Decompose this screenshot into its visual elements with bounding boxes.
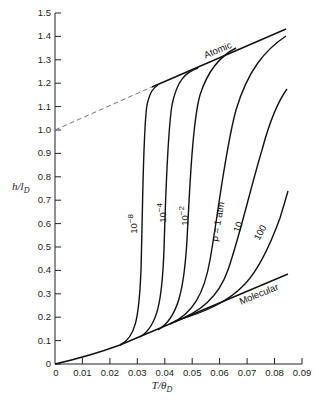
y-tick-label: 1.1 [38, 101, 51, 112]
y-axis-title: h/lD [12, 180, 30, 195]
y-tick-label: 0.7 [38, 194, 51, 205]
chart: 0 0.1 0.2 0.3 0.4 0.5 0.6 0.7 0.8 0.9 1.… [0, 0, 319, 403]
label-p100: 100 [251, 223, 268, 242]
x-tick-label: 0.06 [210, 367, 229, 378]
x-tick-label: 0 [53, 367, 58, 378]
atomic-dashed-line [55, 86, 154, 130]
y-tick-label: 1.5 [38, 7, 51, 18]
y-tick-label: 0.6 [38, 218, 51, 229]
x-tick-label: 0.07 [238, 367, 257, 378]
y-tick-label: 0.1 [38, 335, 51, 346]
y-tick-label: 1.3 [38, 54, 51, 65]
curve-p1atm [170, 36, 286, 324]
cropped-caption [4, 396, 315, 403]
x-tick-label: 0.02 [101, 367, 120, 378]
x-tick-label: 0.08 [265, 367, 284, 378]
atomic-line [152, 29, 286, 87]
y-tick-label: 0.3 [38, 288, 51, 299]
y-tick-label: 0.9 [38, 147, 51, 158]
x-tick-label: 0.09 [293, 367, 312, 378]
y-tick-label: 1.2 [38, 77, 51, 88]
y-tick-label: 1.0 [38, 124, 51, 135]
y-tick-label: 0.4 [38, 264, 51, 275]
x-tick-label: 0.04 [156, 367, 175, 378]
x-tick-label: 0.01 [73, 367, 92, 378]
label-p1atm: p = 1 atm [209, 201, 227, 242]
x-ticks [82, 358, 302, 364]
label-1e-8: 10−8 [126, 214, 139, 234]
y-ticks [55, 13, 61, 364]
curve-1e-2 [158, 48, 236, 330]
x-tick-labels: 0 0.01 0.02 0.03 0.04 0.05 0.06 0.07 0.0… [53, 367, 311, 378]
y-tick-label: 0.2 [38, 311, 51, 322]
y-tick-label: 0.5 [38, 241, 51, 252]
x-tick-label: 0.05 [183, 367, 202, 378]
y-tick-label: 0.8 [38, 171, 51, 182]
y-tick-label: 0 [46, 358, 51, 369]
x-tick-label: 0.03 [128, 367, 147, 378]
atomic-label: Atomic [202, 39, 233, 60]
x-axis-title: T/θD [152, 379, 173, 394]
y-tick-label: 1.4 [38, 30, 51, 41]
axes [55, 13, 302, 364]
y-tick-labels: 0 0.1 0.2 0.3 0.4 0.5 0.6 0.7 0.8 0.9 1.… [38, 7, 51, 369]
molecular-line [55, 274, 288, 364]
